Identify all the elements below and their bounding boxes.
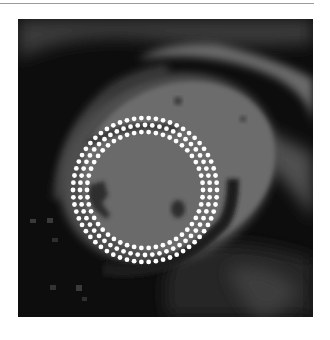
contour-dot [92, 216, 97, 221]
contour-dot [112, 237, 117, 242]
contour-dot [192, 240, 197, 245]
contour-dot [185, 148, 190, 153]
contour-dot [118, 120, 123, 125]
contour-dot [213, 173, 218, 178]
contour-dot [92, 147, 97, 152]
contour-dot [201, 216, 206, 221]
contour-dot [197, 166, 202, 171]
contour-dot [154, 259, 159, 264]
contour-dot [207, 180, 212, 185]
contour-dot [139, 116, 144, 121]
contour-dot [85, 195, 90, 200]
dark-spot-top [174, 97, 182, 105]
contour-dot [164, 126, 169, 131]
contour-dot [174, 123, 179, 128]
contour-dot [146, 116, 151, 121]
contour-dot [99, 131, 104, 136]
contour-dot [189, 234, 194, 239]
contour-dot [78, 180, 83, 185]
contour-dot [89, 209, 94, 214]
contour-dot [207, 195, 212, 200]
contour-dot [209, 216, 214, 221]
contour-dot [190, 154, 195, 159]
contour-dot [197, 235, 202, 240]
mri-image-frame [18, 19, 313, 317]
contour-dot [76, 216, 81, 221]
contour-dot [78, 188, 83, 193]
contour-dot [105, 127, 110, 132]
contour-dot [150, 252, 155, 257]
contour-dot [86, 173, 91, 178]
contour-dot [93, 240, 98, 245]
contour-dot [132, 131, 137, 136]
contour-dot [215, 188, 220, 193]
contour-dot [161, 243, 166, 248]
contour-dot [177, 243, 182, 248]
contour-dot [84, 216, 89, 221]
contour-dot [157, 124, 162, 129]
contour-dot [199, 202, 204, 207]
contour-dot [139, 130, 144, 135]
contour-dot [74, 209, 79, 214]
contour-dot [180, 143, 185, 148]
contour-dot [135, 123, 140, 128]
contour-dot [81, 209, 86, 214]
contour-dot [114, 246, 119, 251]
contour-dot [153, 131, 158, 136]
contour-dot [193, 228, 198, 233]
contour-dot [206, 223, 211, 228]
contour-dot [192, 135, 197, 140]
contour-dot [180, 232, 185, 237]
contour-dot [74, 166, 79, 171]
contour-dot [214, 195, 219, 200]
contour-dot [79, 202, 84, 207]
contour-dot [80, 153, 85, 158]
contour-dot [125, 257, 130, 262]
contour-dot [80, 223, 85, 228]
contour-dot [209, 159, 214, 164]
contour-dot [183, 137, 188, 142]
contour-dot [174, 139, 179, 144]
mri-image [18, 19, 313, 317]
contour-dot [88, 141, 93, 146]
contour-dot [72, 173, 77, 178]
dark-spot-right [240, 116, 246, 122]
contour-dot [108, 133, 113, 138]
contour-dot [202, 146, 207, 151]
contour-dot [100, 227, 105, 232]
contour-dot [108, 243, 113, 248]
contour-dot [125, 132, 130, 137]
papillary-muscle-right [171, 200, 185, 218]
contour-dot [111, 252, 116, 257]
contour-dot [97, 234, 102, 239]
contour-dot [161, 132, 166, 137]
contour-dot [190, 222, 195, 227]
noise-spot [30, 219, 36, 223]
noise-spot [50, 285, 56, 290]
contour-dot [174, 237, 179, 242]
contour-dot [157, 251, 162, 256]
contour-dot [99, 245, 104, 250]
contour-dot [177, 133, 182, 138]
contour-dot [135, 252, 140, 257]
noise-spot [76, 285, 82, 291]
contour-dot [92, 160, 97, 165]
contour-dot [114, 129, 119, 134]
contour-dot [161, 118, 166, 123]
contour-dot [197, 209, 202, 214]
contour-dot [193, 160, 198, 165]
contour-dot [71, 195, 76, 200]
noise-spot [52, 238, 58, 242]
contour-dot [211, 166, 216, 171]
contour-dot [202, 229, 207, 234]
contour-dot [154, 116, 159, 121]
contour-dot [118, 135, 123, 140]
contour-dot [211, 209, 216, 214]
contour-dot [146, 245, 151, 250]
contour-dot [88, 153, 93, 158]
contour-dot [96, 154, 101, 159]
contour-dot [174, 252, 179, 257]
contour-dot [168, 255, 173, 260]
contour-dot [121, 249, 126, 254]
contour-dot [88, 222, 93, 227]
